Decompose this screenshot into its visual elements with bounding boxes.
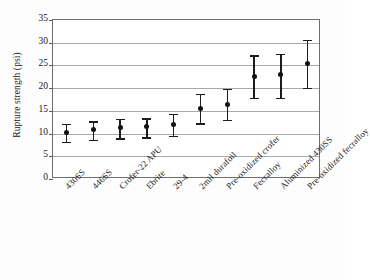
error-bar-cap-upper: [89, 121, 98, 122]
plot-area: [52, 19, 320, 178]
data-point-marker[interactable]: [305, 61, 310, 66]
y-axis-tick-label: 10: [26, 128, 48, 138]
gridline: [53, 43, 319, 44]
y-axis-tick-mark: [49, 134, 53, 135]
data-point-marker[interactable]: [91, 127, 96, 132]
error-bar-cap-upper: [142, 118, 151, 119]
y-axis-tick-label: 20: [26, 82, 48, 92]
y-axis-tick-mark: [49, 111, 53, 112]
error-bar-cap-upper: [62, 124, 71, 125]
y-axis-title-text: Rupture strength (psi): [12, 52, 22, 138]
y-axis-tick-mark: [49, 156, 53, 157]
error-bar-cap-lower: [276, 98, 285, 99]
y-axis-tick-mark: [49, 65, 53, 66]
error-bar-cap-lower: [89, 140, 98, 141]
gridline: [53, 111, 319, 112]
error-bar-cap-upper: [276, 54, 285, 55]
error-bar-cap-upper: [303, 40, 312, 41]
y-axis-tick-label: 25: [26, 60, 48, 70]
gridline: [53, 88, 319, 89]
error-bar-cap-lower: [142, 137, 151, 138]
error-bar-cap-lower: [62, 142, 71, 143]
data-point-marker[interactable]: [144, 124, 149, 129]
error-bar-cap-upper: [196, 94, 205, 95]
error-bar-cap-lower: [250, 98, 259, 99]
error-bar-cap-lower: [223, 120, 232, 121]
error-bar-cap-lower: [169, 136, 178, 137]
y-axis-tick-mark: [49, 179, 53, 180]
gridline: [53, 65, 319, 66]
y-axis-tick-label: 0: [26, 173, 48, 183]
error-bar-cap-upper: [250, 55, 259, 56]
gridline: [53, 156, 319, 157]
y-axis-tick-label: 30: [26, 37, 48, 47]
y-axis-tick-mark: [49, 88, 53, 89]
data-point-marker[interactable]: [225, 102, 230, 107]
error-bar-cap-lower: [303, 88, 312, 89]
y-axis-tick-label: 15: [26, 105, 48, 115]
data-point-marker[interactable]: [198, 106, 203, 111]
y-axis-tick-mark: [49, 20, 53, 21]
error-bar-cap-upper: [116, 119, 125, 120]
error-bar-cap-lower: [196, 123, 205, 124]
error-bar-cap-upper: [223, 89, 232, 90]
data-point-marker[interactable]: [252, 74, 257, 79]
y-axis-tick-mark: [49, 43, 53, 44]
data-point-marker[interactable]: [171, 122, 176, 127]
error-bar-cap-upper: [169, 114, 178, 115]
error-bar-cap-lower: [116, 138, 125, 139]
y-axis-tick-label: 35: [26, 14, 48, 24]
y-axis-tick-labels: 05101520253035: [24, 0, 48, 280]
y-axis-tick-label: 5: [26, 151, 48, 161]
data-point-marker[interactable]: [278, 72, 283, 77]
data-point-marker[interactable]: [118, 125, 123, 130]
